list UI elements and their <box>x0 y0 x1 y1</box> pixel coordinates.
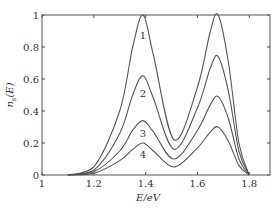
curve-2 <box>68 55 249 175</box>
x-tick-label: 1.8 <box>241 178 257 189</box>
x-axis-label: E/eV <box>135 192 162 203</box>
plot-area-border <box>42 15 270 175</box>
svg-text:ns(E): ns(E) <box>4 82 18 107</box>
curve-label-1: 1 <box>140 30 146 41</box>
plot-frame <box>42 15 270 175</box>
y-tick-label: 0.6 <box>23 74 39 85</box>
curve-label-3: 3 <box>140 128 146 139</box>
x-tick-label: 1.6 <box>190 178 206 189</box>
y-axis-label-arg: (E) <box>4 82 15 97</box>
curve-label-4: 4 <box>140 149 146 160</box>
curve-1 <box>68 13 249 175</box>
y-tick-label: 1 <box>33 10 39 21</box>
chart: 11.21.41.61.800.20.40.60.81 1234 E/eV ns… <box>0 0 280 209</box>
y-axis-label: ns(E) <box>4 82 18 107</box>
curve-labels: 1234 <box>140 30 146 159</box>
x-tick-label: 1.2 <box>86 178 102 189</box>
y-tick-label: 0.4 <box>23 106 39 117</box>
curve-label-2: 2 <box>140 88 146 99</box>
x-tick-label: 1 <box>39 178 45 189</box>
y-tick-label: 0 <box>33 170 39 181</box>
curve-4 <box>68 127 249 175</box>
x-tick-label: 1.4 <box>138 178 154 189</box>
y-tick-label: 0.8 <box>23 42 39 53</box>
curve-3 <box>68 96 249 175</box>
curves <box>68 13 249 175</box>
y-tick-label: 0.2 <box>23 138 39 149</box>
